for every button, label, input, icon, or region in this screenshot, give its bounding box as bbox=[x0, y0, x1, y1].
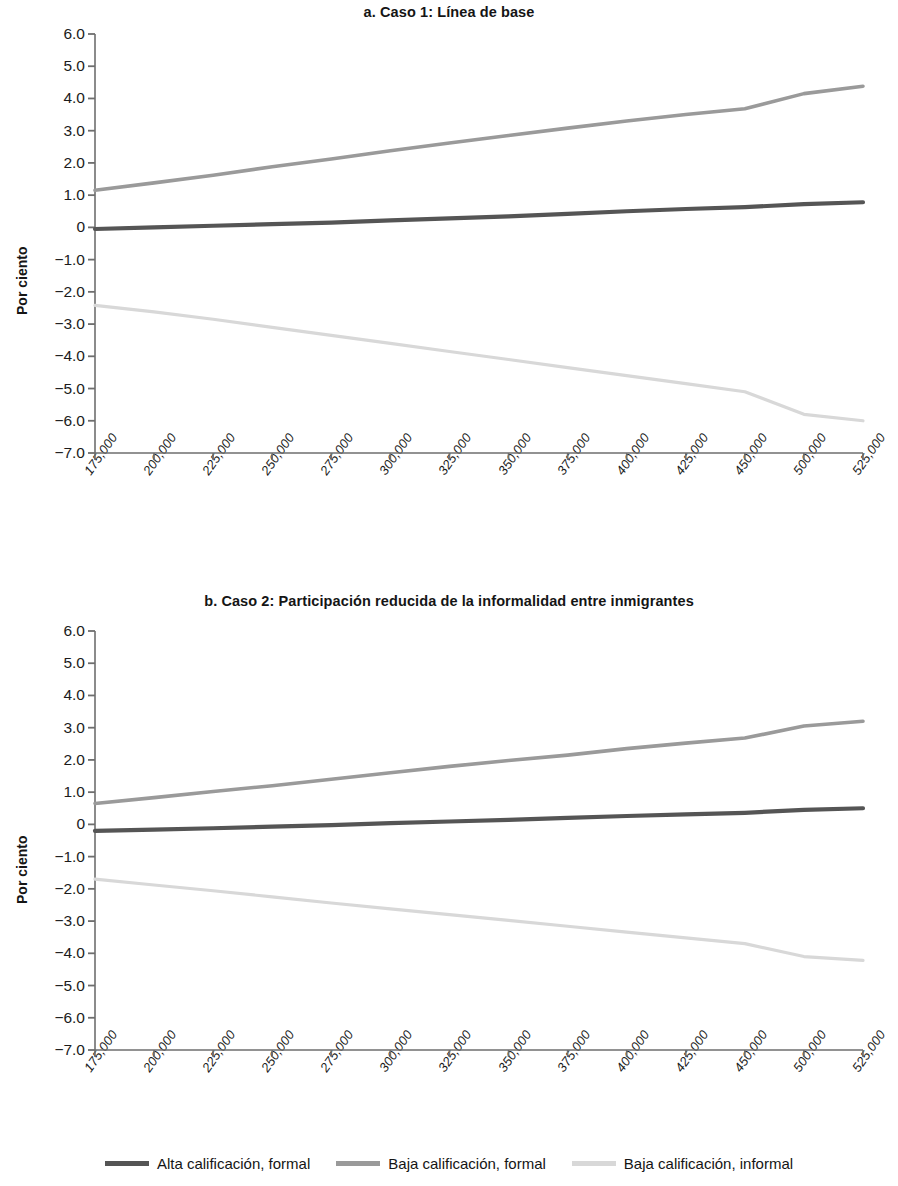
legend-item-alta-formal: Alta calificación, formal bbox=[105, 1155, 310, 1172]
series-line bbox=[95, 721, 863, 803]
legend-item-baja-informal: Baja calificación, informal bbox=[572, 1155, 793, 1172]
panel-caso-2: b. Caso 2: Participación reducida de la … bbox=[0, 593, 898, 1153]
series-line bbox=[95, 808, 863, 831]
chart-a: Por ciento 6.05.04.03.02.01.00−1.0−2.0−3… bbox=[0, 20, 898, 580]
legend-label-alta-formal: Alta calificación, formal bbox=[157, 1155, 310, 1172]
legend-swatch-alta-formal bbox=[105, 1161, 149, 1166]
chart-plot-area bbox=[0, 609, 898, 1129]
panel-caso-1: a. Caso 1: Línea de base Por ciento 6.05… bbox=[0, 0, 898, 593]
series-line bbox=[95, 202, 863, 229]
series-line bbox=[95, 86, 863, 190]
panel-b-title: b. Caso 2: Participación reducida de la … bbox=[0, 593, 898, 609]
figure-legend: Alta calificación, formal Baja calificac… bbox=[0, 1155, 898, 1172]
series-line bbox=[95, 305, 863, 420]
legend-item-baja-formal: Baja calificación, formal bbox=[336, 1155, 546, 1172]
series-line bbox=[95, 879, 863, 960]
legend-swatch-baja-informal bbox=[572, 1161, 616, 1166]
legend-label-baja-informal: Baja calificación, informal bbox=[624, 1155, 793, 1172]
panel-a-title: a. Caso 1: Línea de base bbox=[0, 0, 898, 20]
legend-swatch-baja-formal bbox=[336, 1161, 380, 1166]
chart-plot-area bbox=[0, 20, 898, 580]
legend-label-baja-formal: Baja calificación, formal bbox=[388, 1155, 546, 1172]
chart-b: Por ciento 6.05.04.03.02.01.00−1.0−2.0−3… bbox=[0, 609, 898, 1129]
